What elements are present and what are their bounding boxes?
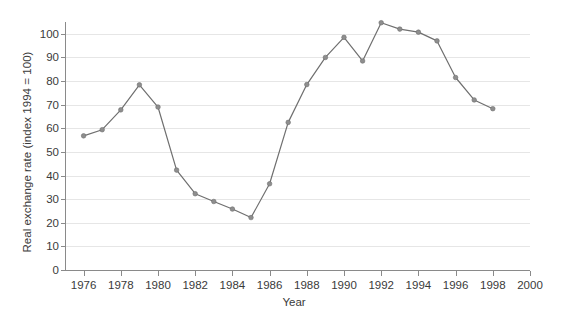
data-point: [174, 168, 179, 173]
y-tick-label: 10: [46, 240, 59, 252]
x-tick-label: 1980: [145, 279, 171, 291]
data-point: [193, 191, 198, 196]
y-tick-label: 80: [46, 75, 59, 87]
x-tick-mark: [344, 271, 345, 276]
y-tick-label: 50: [46, 146, 59, 158]
y-tick-label: 30: [46, 193, 59, 205]
x-tick-mark: [418, 271, 419, 276]
data-point: [137, 83, 142, 88]
x-tick-mark: [195, 271, 196, 276]
x-tick-label: 1998: [480, 279, 506, 291]
y-tick-label: 70: [46, 99, 59, 111]
data-point: [100, 127, 105, 132]
x-tick-mark: [84, 271, 85, 276]
y-tick-label: 0: [53, 264, 59, 276]
x-tick-label: 1984: [220, 279, 246, 291]
x-tick-label: 1982: [182, 279, 208, 291]
x-tick-label: 1986: [257, 279, 283, 291]
data-point: [435, 39, 440, 44]
y-tick-label: 40: [46, 170, 59, 182]
x-tick-label: 1988: [294, 279, 320, 291]
data-point: [119, 108, 124, 113]
data-point: [156, 105, 161, 110]
y-tick-label: 20: [46, 217, 59, 229]
data-point: [379, 20, 384, 25]
x-tick-label: 1992: [368, 279, 394, 291]
data-point: [81, 134, 86, 139]
x-tick-label: 1976: [71, 279, 97, 291]
x-tick-mark: [158, 271, 159, 276]
data-point: [472, 98, 477, 103]
data-point: [230, 207, 235, 212]
data-point: [342, 35, 347, 40]
x-tick-label: 1990: [331, 279, 357, 291]
y-tick-label: 60: [46, 122, 59, 134]
series-markers: [81, 20, 495, 219]
data-point: [360, 59, 365, 64]
x-tick-label: 2000: [517, 279, 543, 291]
x-tick-label: 1994: [406, 279, 432, 291]
data-point: [416, 30, 421, 35]
data-point: [305, 82, 310, 87]
y-axis-title: Real exchange rate (index 1994 = 100): [14, 7, 40, 297]
x-tick-mark: [493, 271, 494, 276]
y-tick-label: 100: [40, 28, 59, 40]
data-point: [491, 106, 496, 111]
line-chart: Real exchange rate (index 1994 = 100) 01…: [0, 0, 563, 320]
x-tick-mark: [530, 271, 531, 276]
x-tick-mark: [270, 271, 271, 276]
data-point: [249, 215, 254, 220]
data-series-layer: [65, 22, 530, 271]
x-tick-mark: [381, 271, 382, 276]
plot-area: 0102030405060708090100 19761978198019821…: [65, 22, 530, 270]
x-tick-label: 1978: [108, 279, 134, 291]
x-tick-label: 1996: [443, 279, 469, 291]
x-tick-mark: [121, 271, 122, 276]
data-point: [398, 27, 403, 32]
y-tick-label: 90: [46, 51, 59, 63]
data-point: [267, 181, 272, 186]
x-tick-mark: [232, 271, 233, 276]
data-point: [286, 120, 291, 125]
x-tick-mark: [456, 271, 457, 276]
data-point: [212, 199, 217, 204]
data-point: [453, 75, 458, 80]
x-axis-title: Year: [84, 296, 504, 308]
x-tick-mark: [307, 271, 308, 276]
data-point: [323, 55, 328, 60]
